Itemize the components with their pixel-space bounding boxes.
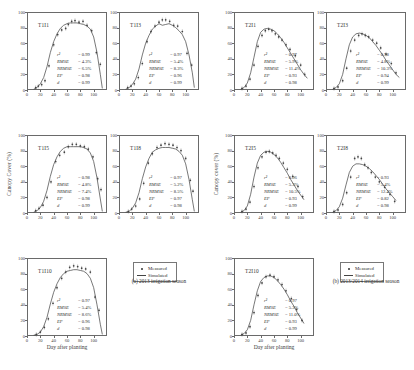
stat-key: RMSE (356, 59, 377, 66)
y-tick-mark (117, 135, 119, 136)
stat-value: = 8.5% (170, 189, 192, 196)
panel-label: T1I1 (38, 22, 49, 28)
stat-key: d (57, 203, 78, 210)
stat-key: NRMSE (57, 312, 78, 319)
stat-value: = 4.3% (78, 59, 100, 66)
stat-key: r² (264, 52, 285, 59)
y-tick: 40 (222, 302, 232, 307)
stat-value: = 4.8% (78, 182, 100, 189)
x-tick-mark (146, 90, 147, 92)
stat-row: r²= 0.97 (149, 175, 192, 182)
x-tick: 0 (228, 215, 240, 220)
stat-value: = 5.4% (78, 305, 100, 312)
x-tick: 80 (281, 215, 293, 220)
stat-row: d= 0.99 (149, 80, 192, 87)
group-caption: (b) 2013/2014 irrigation season (316, 278, 414, 284)
y-tick-mark (25, 166, 27, 167)
x-axis-label: Day after planting (27, 344, 107, 350)
stat-value: = 0.97 (78, 298, 100, 305)
stat-row: r²= 0.98 (356, 52, 399, 59)
y-tick: 100 (15, 10, 25, 15)
stat-key: r² (149, 52, 170, 59)
stat-value: = 5.3% (285, 305, 307, 312)
stat-row: r²= 0.97 (57, 298, 100, 305)
y-tick: 60 (107, 41, 117, 46)
x-tick-mark (301, 90, 302, 92)
stat-key: r² (149, 175, 170, 182)
y-tick: 20 (107, 195, 117, 200)
x-tick: 20 (241, 215, 253, 220)
x-tick: 100 (387, 92, 399, 97)
y-tick-mark (232, 289, 234, 290)
x-tick-mark (159, 90, 160, 92)
y-tick-mark (232, 258, 234, 259)
x-tick: 40 (347, 92, 359, 97)
x-tick-mark (287, 336, 288, 338)
stat-row: EF= 0.98 (57, 73, 100, 80)
stat-value: = 0.99 (78, 80, 100, 87)
x-tick: 40 (48, 92, 60, 97)
y-tick-mark (324, 135, 326, 136)
stat-value: = 10.5% (285, 189, 307, 196)
stat-value: = 0.97 (285, 298, 307, 305)
y-tick-mark (25, 182, 27, 183)
y-tick-mark (324, 59, 326, 60)
y-tick-mark (232, 197, 234, 198)
y-tick: 100 (222, 10, 232, 15)
y-tick: 40 (15, 56, 25, 61)
stat-key: NRMSE (264, 66, 285, 73)
stat-key: NRMSE (356, 66, 377, 73)
x-tick: 60 (153, 92, 165, 97)
stat-key: EF (57, 73, 78, 80)
x-tick-mark (119, 90, 120, 92)
x-tick-mark (261, 213, 262, 215)
y-tick: 20 (314, 195, 324, 200)
y-tick-mark (324, 12, 326, 13)
stat-value: = 0.97 (170, 196, 192, 203)
stat-row: RMSE= 5.9% (264, 59, 307, 66)
stat-value: = 0.82 (377, 196, 399, 203)
stats-block: r²= 0.97RMSE= 5.4%NRMSE= 8.3%EF= 0.96d= … (149, 52, 192, 87)
y-tick: 60 (314, 41, 324, 46)
y-tick: 20 (107, 72, 117, 77)
y-tick: 80 (15, 271, 25, 276)
y-tick: 40 (314, 56, 324, 61)
x-tick: 60 (360, 92, 372, 97)
y-tick: 80 (107, 25, 117, 30)
y-tick: 80 (314, 25, 324, 30)
stat-key: EF (264, 196, 285, 203)
x-tick: 40 (48, 215, 60, 220)
stat-key: RMSE (57, 59, 78, 66)
x-tick-mark (94, 336, 95, 338)
stat-key: NRMSE (356, 189, 377, 196)
panel-label: T1I10 (38, 268, 52, 274)
y-tick-mark (117, 166, 119, 167)
y-tick: 100 (15, 256, 25, 261)
x-tick: 20 (126, 215, 138, 220)
x-axis-label: Day after planting (234, 344, 314, 350)
stat-row: EF= 0.82 (356, 196, 399, 203)
y-tick: 80 (314, 148, 324, 153)
x-tick: 80 (166, 92, 178, 97)
x-tick-mark (247, 213, 248, 215)
stat-value: = 5.9% (285, 59, 307, 66)
y-tick-mark (232, 274, 234, 275)
stat-key: d (356, 80, 377, 87)
stat-value: = 0.93 (377, 175, 399, 182)
stat-key: RMSE (149, 59, 170, 66)
stat-value: = 0.97 (170, 52, 192, 59)
stat-key: d (356, 203, 377, 210)
y-tick-mark (25, 274, 27, 275)
x-tick: 0 (228, 92, 240, 97)
stat-value: = 5.3% (285, 182, 307, 189)
x-tick: 20 (241, 338, 253, 343)
x-tick: 0 (113, 92, 125, 97)
measured-marker-icon (344, 268, 353, 270)
stat-key: EF (149, 73, 170, 80)
y-tick-mark (117, 74, 119, 75)
x-tick-mark (40, 90, 41, 92)
x-tick-mark (261, 336, 262, 338)
stat-row: NRMSE= 8.5% (149, 189, 192, 196)
stats-block: r²= 0.97RMSE= 5.9%NRMSE= 11.4%EF= 0.93d=… (264, 52, 307, 87)
x-tick: 20 (34, 338, 46, 343)
